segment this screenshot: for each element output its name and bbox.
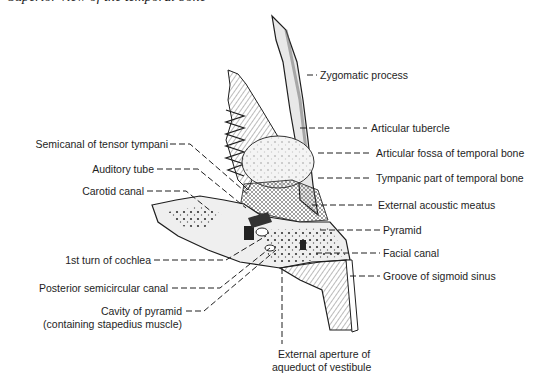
label-posterior-semicircular-canal: Posterior semicircular canal [39, 282, 168, 294]
label-external-acoustic-meatus: External acoustic meatus [378, 199, 495, 211]
label-zygomatic-process: Zygomatic process [320, 69, 408, 81]
label-facial-canal: Facial canal [383, 247, 439, 259]
sigmoid-groove-shape [280, 260, 355, 330]
label-tympanic-part: Tympanic part of temporal bone [376, 172, 524, 184]
label-articular-tubercle: Articular tubercle [371, 122, 450, 134]
cochlea-shape [256, 228, 268, 236]
label-groove-sigmoid-sinus: Groove of sigmoid sinus [383, 270, 496, 282]
label-articular-fossa: Articular fossa of temporal bone [376, 147, 524, 159]
label-first-turn-cochlea: 1st turn of cochlea [65, 254, 151, 266]
label-external-aperture-line2: aqueduct of vestibule [272, 361, 371, 373]
label-semicanal-tensor-tympani: Semicanal of tensor tympani [36, 138, 168, 150]
label-cavity-of-pyramid: Cavity of pyramid [101, 305, 182, 317]
label-cavity-of-pyramid-note: (containing stapedius muscle) [43, 318, 182, 330]
label-auditory-tube: Auditory tube [92, 163, 154, 175]
label-carotid-canal: Carotid canal [82, 185, 144, 197]
label-external-aperture-line1: External aperture of [278, 348, 370, 360]
label-pyramid: Pyramid [383, 224, 422, 236]
